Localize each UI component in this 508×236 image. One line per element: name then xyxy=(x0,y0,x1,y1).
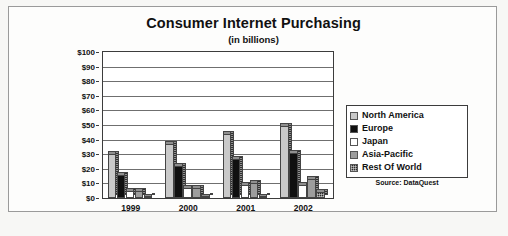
legend-item-north-america[interactable]: North America xyxy=(350,109,463,122)
legend-item-japan[interactable]: Japan xyxy=(350,135,463,148)
x-axis-tick-label: 2002 xyxy=(294,203,313,213)
plot-area xyxy=(102,51,334,199)
y-axis-tick-mark xyxy=(96,154,99,155)
bar-front-face xyxy=(174,166,183,198)
y-axis: $0$10$20$30$40$50$60$70$80$90$100 xyxy=(61,51,99,199)
bar-asia-pacific-2001 xyxy=(250,183,259,198)
bar-rest-of-world-2002 xyxy=(316,192,325,198)
legend-item-europe[interactable]: Europe xyxy=(350,122,463,135)
chart-frame: Consumer Internet Purchasing (in billion… xyxy=(8,6,497,212)
bar-front-face xyxy=(298,185,307,198)
bar-side-face xyxy=(325,189,328,195)
y-axis-tick-label: $30 xyxy=(82,150,95,159)
y-axis-tick-mark xyxy=(96,67,99,68)
bar-side-face xyxy=(267,193,270,195)
x-axis: 1999200020012002 xyxy=(102,203,334,217)
bar-front-face xyxy=(108,154,117,198)
y-axis-tick-label: $0 xyxy=(86,194,95,203)
bar-front-face xyxy=(183,188,192,198)
bar-europe-2000 xyxy=(174,166,183,198)
gridline xyxy=(103,67,333,68)
legend-item-rest-of-world[interactable]: Rest Of World xyxy=(350,161,463,174)
bar-front-face xyxy=(135,191,144,198)
bar-japan-1999 xyxy=(126,191,135,198)
y-axis-tick-mark xyxy=(96,198,99,199)
y-axis-tick-label: $20 xyxy=(82,164,95,173)
y-axis-tick-label: $10 xyxy=(82,179,95,188)
bar-front-face xyxy=(232,159,241,198)
legend-label: Europe xyxy=(362,124,393,133)
bar-front-face xyxy=(259,196,268,198)
bar-japan-2000 xyxy=(183,188,192,198)
chart-source: Source: DataQuest xyxy=(346,179,468,186)
bar-side-face xyxy=(152,193,155,195)
bar-europe-2002 xyxy=(289,153,298,198)
chart-title: Consumer Internet Purchasing xyxy=(9,15,498,31)
bar-front-face xyxy=(316,192,325,198)
bar-north-america-2001 xyxy=(223,134,232,198)
y-axis-tick-label: $90 xyxy=(82,62,95,71)
bar-north-america-1999 xyxy=(108,154,117,198)
legend-label: Rest Of World xyxy=(362,163,422,172)
y-axis-tick-label: $40 xyxy=(82,135,95,144)
y-axis-tick-label: $70 xyxy=(82,91,95,100)
bar-asia-pacific-1999 xyxy=(135,191,144,198)
legend-label: Japan xyxy=(362,137,388,146)
y-axis-tick-mark xyxy=(96,125,99,126)
gridline xyxy=(103,140,333,141)
legend-swatch-europe xyxy=(350,125,358,133)
bar-japan-2001 xyxy=(241,185,250,198)
y-axis-tick-mark xyxy=(96,140,99,141)
x-axis-tick-label: 2000 xyxy=(179,203,198,213)
y-axis-tick-mark xyxy=(96,81,99,82)
legend-swatch-north-america xyxy=(350,112,358,120)
bar-front-face xyxy=(201,196,210,198)
bar-north-america-2000 xyxy=(165,144,174,198)
bar-front-face xyxy=(165,144,174,198)
y-axis-tick-mark xyxy=(96,110,99,111)
bar-front-face xyxy=(241,185,250,198)
bar-front-face xyxy=(117,175,126,198)
bar-asia-pacific-2002 xyxy=(307,179,316,198)
bar-japan-2002 xyxy=(298,185,307,198)
y-axis-tick-label: $100 xyxy=(77,48,95,57)
y-axis-tick-mark xyxy=(96,96,99,97)
y-axis-tick-mark xyxy=(96,183,99,184)
bar-front-face xyxy=(223,134,232,198)
bar-rest-of-world-2001 xyxy=(259,197,268,199)
y-axis-tick-label: $60 xyxy=(82,106,95,115)
legend-label: North America xyxy=(362,111,424,120)
gridline xyxy=(103,125,333,126)
bar-rest-of-world-2000 xyxy=(201,197,210,199)
chart-legend: North AmericaEuropeJapanAsia-PacificRest… xyxy=(346,105,468,178)
bar-north-america-2002 xyxy=(280,126,289,198)
legend-swatch-rest-of-world xyxy=(350,164,358,172)
y-axis-tick-label: $80 xyxy=(82,77,95,86)
bar-europe-1999 xyxy=(117,175,126,198)
y-axis-tick-mark xyxy=(96,169,99,170)
bar-rest-of-world-1999 xyxy=(144,197,153,199)
gridline xyxy=(103,81,333,82)
bar-front-face xyxy=(144,196,153,198)
bar-front-face xyxy=(192,188,201,198)
legend-swatch-asia-pacific xyxy=(350,151,358,159)
gridline xyxy=(103,96,333,97)
legend-label: Asia-Pacific xyxy=(362,150,413,159)
bar-europe-2001 xyxy=(232,159,241,198)
bar-asia-pacific-2000 xyxy=(192,188,201,198)
bar-side-face xyxy=(210,193,213,195)
x-axis-tick-label: 1999 xyxy=(121,203,140,213)
bar-front-face xyxy=(289,153,298,198)
bar-front-face xyxy=(126,191,135,198)
chart-subtitle: (in billions) xyxy=(9,34,498,45)
legend-swatch-japan xyxy=(350,138,358,146)
gridline xyxy=(103,110,333,111)
legend-item-asia-pacific[interactable]: Asia-Pacific xyxy=(350,148,463,161)
chart-figure: Consumer Internet Purchasing (in billion… xyxy=(0,0,508,236)
bar-front-face xyxy=(307,179,316,198)
y-axis-tick-label: $50 xyxy=(82,121,95,130)
bar-front-face xyxy=(280,126,289,198)
bar-front-face xyxy=(250,183,259,198)
y-axis-tick-mark xyxy=(96,52,99,53)
x-axis-tick-label: 2001 xyxy=(236,203,255,213)
